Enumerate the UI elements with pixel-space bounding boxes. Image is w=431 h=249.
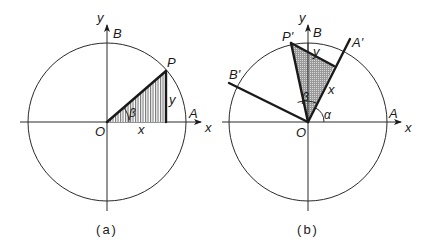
angle-beta-label-b: β: [301, 90, 309, 104]
angle-beta-label-a: β: [128, 106, 136, 120]
angle-alpha-arc: [315, 108, 324, 122]
side-y-label-b: y: [312, 44, 321, 59]
axis-b-prime: [229, 83, 308, 122]
rotation-diagram: y B P y A x β O x (a) y B P' A' B' y x β…: [0, 0, 431, 249]
x-axis-label-a: x: [204, 120, 212, 135]
side-x-label-b: x: [327, 82, 335, 97]
y-axis-label-a: y: [96, 10, 105, 25]
origin-label-b: O: [296, 125, 306, 140]
point-a-label-b: A: [388, 106, 398, 121]
origin-label-a: O: [95, 124, 105, 139]
side-x-label-a: x: [137, 122, 145, 137]
x-axis-label-b: x: [404, 120, 412, 135]
point-a-label-a: A: [188, 106, 198, 121]
caption-a: (a): [96, 222, 118, 237]
angle-alpha-label: α: [324, 108, 332, 122]
panel-a: y B P y A x β O x (a): [20, 10, 212, 237]
caption-b: (b): [297, 222, 319, 237]
panel-b: y B P' A' B' y x β α A x O (b): [222, 10, 412, 237]
y-axis-label-b: y: [298, 10, 307, 25]
side-y-label-a: y: [168, 92, 177, 107]
point-p-label: P: [167, 55, 176, 70]
point-p-prime-label: P': [282, 29, 294, 44]
point-b-label-a: B: [113, 26, 122, 41]
point-b-label-b: B: [313, 25, 322, 40]
point-b-prime-label: B': [229, 67, 241, 82]
point-a-prime-label: A': [351, 35, 364, 50]
